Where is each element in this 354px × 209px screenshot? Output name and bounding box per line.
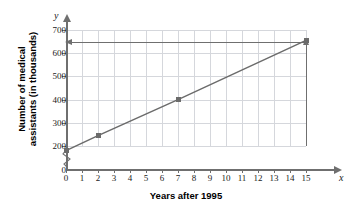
y-axis-title-line2: assistants (in thousands) [27, 4, 38, 174]
vertical-reference-line [306, 44, 307, 146]
gridline-vertical [98, 30, 99, 146]
gridline-horizontal [66, 123, 306, 124]
gridline-vertical [242, 30, 243, 146]
x-tick-label: 8 [186, 173, 202, 183]
x-tick-label: 4 [122, 173, 138, 183]
y-axis-title-line1: Number of medical [16, 4, 27, 174]
y-axis-letter: y [54, 10, 58, 21]
gridline-vertical [114, 30, 115, 146]
x-axis-line [66, 169, 335, 171]
x-tick-label: 12 [250, 173, 266, 183]
x-tick-label: 3 [106, 173, 122, 183]
gridline-horizontal [66, 100, 306, 101]
x-tick-label: 7 [170, 173, 186, 183]
gridline-vertical [258, 30, 259, 146]
gridline-vertical [130, 30, 131, 146]
gridline-horizontal [66, 146, 306, 147]
gridline-horizontal [66, 30, 306, 31]
gridline-vertical [274, 30, 275, 146]
x-tick-label: 13 [266, 173, 282, 183]
horizontal-reference-arrowhead [65, 39, 72, 45]
data-point-marker [176, 97, 181, 102]
gridline-vertical [178, 30, 179, 146]
data-point-marker [64, 148, 69, 153]
y-tick-label: 400 [40, 95, 66, 105]
gridline-vertical [194, 30, 195, 146]
x-tick-label: 14 [282, 173, 298, 183]
gridline-horizontal [66, 53, 306, 54]
x-tick-label: 11 [234, 173, 250, 183]
x-tick-label: 2 [90, 173, 106, 183]
gridline-vertical [210, 30, 211, 146]
plot-area [66, 30, 306, 146]
y-tick-label: 300 [40, 118, 66, 128]
gridline-horizontal [66, 76, 306, 77]
x-axis-title: Years after 1995 [66, 190, 306, 201]
gridline-vertical [82, 30, 83, 146]
line-chart: y x 0123456789101112131415 2003004005006… [0, 0, 354, 209]
gridline-vertical [226, 30, 227, 146]
data-point-marker [96, 133, 101, 138]
y-tick-label: 600 [40, 48, 66, 58]
y-tick-label: 500 [40, 71, 66, 81]
y-tick-label: 700 [40, 25, 66, 35]
x-tick-label: 5 [138, 173, 154, 183]
x-tick-label: 9 [202, 173, 218, 183]
gridline-vertical [162, 30, 163, 146]
gridline-vertical [290, 30, 291, 146]
y-axis-title: Number of medical assistants (in thousan… [16, 4, 38, 174]
data-point-marker [304, 38, 309, 43]
gridline-vertical [146, 30, 147, 146]
x-tick-label: 6 [154, 173, 170, 183]
x-tick-label: 1 [74, 173, 90, 183]
x-tick-label: 10 [218, 173, 234, 183]
horizontal-reference-line [70, 42, 306, 43]
x-axis-letter: x [339, 172, 343, 183]
x-tick-label: 15 [298, 173, 314, 183]
y-axis-arrowhead [63, 14, 71, 22]
